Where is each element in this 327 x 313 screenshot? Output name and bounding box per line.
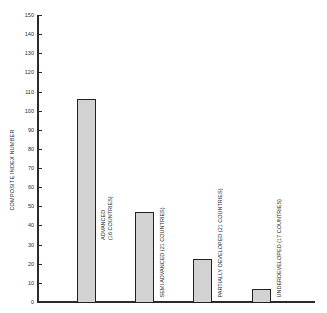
y-tick-label: 20 (12, 261, 34, 267)
y-tick-label: 10 (12, 280, 34, 286)
y-tick (37, 264, 42, 265)
bar-label: UNDERDEVELOPED (17 COUNTRIES) (275, 199, 282, 297)
bar (135, 212, 154, 303)
y-tick (37, 92, 42, 93)
bar-label-line: PARTIALLY DEVELOPED (21 COUNTRIES) (216, 188, 223, 297)
y-tick (37, 225, 42, 226)
y-tick-label: 30 (12, 242, 34, 248)
y-tick-label: 40 (12, 222, 34, 228)
bar-chart: COMPOSITE INDEX NUMBER 01020304050607080… (0, 0, 327, 313)
y-tick (37, 53, 42, 54)
y-tick (37, 34, 42, 35)
y-tick (37, 130, 42, 131)
bar-label: SEMI ADVANCED (21 COUNTRIES) (158, 207, 165, 297)
y-tick-label: 140 (12, 31, 34, 37)
y-tick (37, 111, 42, 112)
y-tick (37, 302, 42, 303)
y-tick (37, 206, 42, 207)
y-tick (37, 72, 42, 73)
y-tick (37, 15, 42, 16)
y-tick-label: 60 (12, 184, 34, 190)
y-tick-label: 90 (12, 127, 34, 133)
y-tick-label: 110 (12, 89, 34, 95)
y-tick-label: 150 (12, 12, 34, 18)
y-tick (37, 149, 42, 150)
bar (252, 289, 271, 303)
bar-label-line: UNDERDEVELOPED (17 COUNTRIES) (275, 199, 282, 297)
y-tick-label: 0 (12, 299, 34, 305)
y-tick-label: 120 (12, 69, 34, 75)
y-axis (37, 15, 39, 302)
y-tick-label: 70 (12, 165, 34, 171)
y-tick-label: 130 (12, 50, 34, 56)
y-tick (37, 168, 42, 169)
bar (77, 99, 96, 303)
y-tick (37, 245, 42, 246)
y-tick-label: 50 (12, 203, 34, 209)
y-tick-label: 80 (12, 146, 34, 152)
bar-label-line: SEMI ADVANCED (21 COUNTRIES) (158, 207, 165, 297)
y-tick (37, 283, 42, 284)
y-tick-label: 100 (12, 108, 34, 114)
bar-label: PARTIALLY DEVELOPED (21 COUNTRIES) (216, 188, 223, 297)
bar-label: ADVANCED(16 COUNTRIES) (100, 196, 113, 240)
y-tick (37, 187, 42, 188)
bar (193, 259, 212, 303)
bar-label-line: (16 COUNTRIES) (107, 196, 114, 240)
